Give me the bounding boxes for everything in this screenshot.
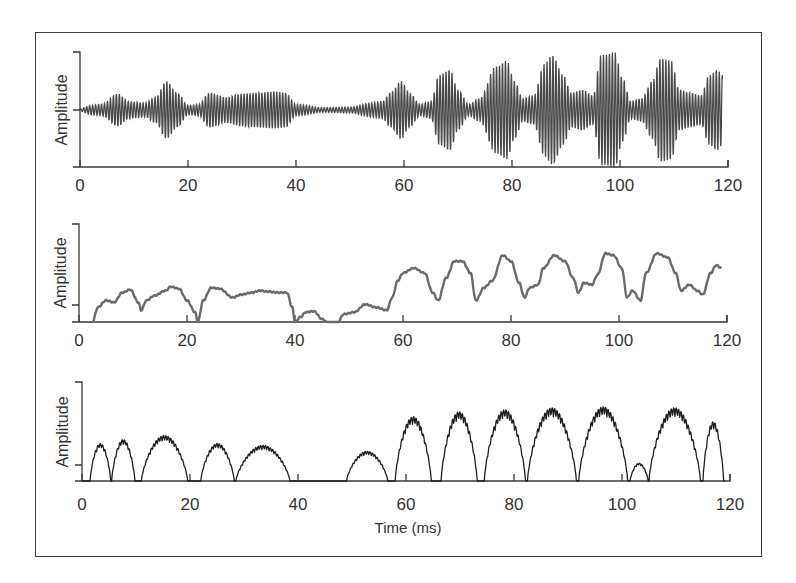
x-tick-label: 40: [286, 331, 305, 350]
y-axis-label-top: Amplitude: [53, 74, 70, 145]
envelope-trace: [93, 253, 722, 322]
panel-middle: 020406080100120 Amplitude: [52, 224, 741, 350]
x-axis-top: [73, 160, 728, 167]
x-ticks-middle: 020406080100120: [74, 315, 741, 350]
x-ticks-top: 020406080100120: [75, 160, 742, 195]
x-tick-label: 120: [716, 495, 744, 514]
x-tick-label: 80: [502, 331, 521, 350]
x-tick-label: 120: [713, 331, 741, 350]
x-tick-label: 60: [394, 331, 413, 350]
panel-top: 020406080100120 Amplitude: [53, 52, 742, 195]
x-tick-label: 80: [503, 176, 522, 195]
x-axis-label: Time (ms): [375, 519, 442, 536]
x-tick-label: 60: [397, 495, 416, 514]
x-tick-label: 0: [75, 176, 84, 195]
x-tick-label: 0: [77, 495, 86, 514]
y-axis-label-bottom: Amplitude: [54, 396, 71, 467]
panel-bottom: 020406080100120 Amplitude Time (ms): [54, 382, 744, 536]
waveform-trace: [80, 52, 722, 168]
x-tick-label: 0: [74, 331, 83, 350]
x-tick-label: 80: [505, 495, 524, 514]
y-axis-bottom: [75, 382, 82, 481]
x-ticks-bottom: 020406080100120: [77, 474, 744, 514]
x-tick-label: 20: [179, 176, 198, 195]
y-axis-middle: [72, 224, 79, 322]
x-tick-label: 100: [606, 176, 634, 195]
y-axis-top: [73, 52, 80, 167]
rectified-envelope-trace: [82, 407, 725, 481]
x-axis-middle: [72, 315, 727, 322]
y-axis-label-middle: Amplitude: [52, 237, 69, 308]
x-tick-label: 60: [395, 176, 414, 195]
x-tick-label: 120: [714, 176, 742, 195]
chart-svg: 020406080100120 Amplitude 02040608010012…: [0, 0, 796, 583]
x-tick-label: 100: [605, 331, 633, 350]
x-tick-label: 20: [178, 331, 197, 350]
x-tick-label: 20: [181, 495, 200, 514]
x-tick-label: 100: [608, 495, 636, 514]
x-tick-label: 40: [287, 176, 306, 195]
x-tick-label: 40: [289, 495, 308, 514]
